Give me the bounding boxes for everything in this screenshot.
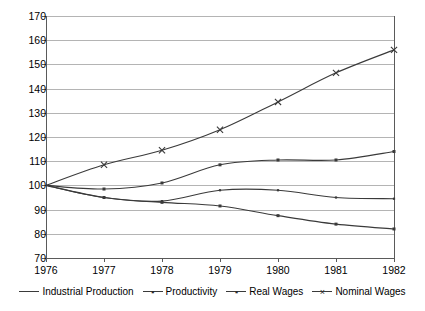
series-productivity xyxy=(46,150,396,191)
legend-marker-icon xyxy=(19,287,39,297)
data-point-marker xyxy=(219,204,222,207)
series-real-wages xyxy=(46,185,396,230)
data-point-marker xyxy=(161,201,164,204)
legend-marker-icon: × xyxy=(312,287,332,297)
legend-label: Industrial Production xyxy=(42,286,133,297)
data-point-marker xyxy=(277,158,280,161)
data-point-marker xyxy=(161,181,164,184)
data-point-marker xyxy=(103,196,106,199)
legend-item-productivity[interactable]: ▪Productivity xyxy=(143,286,218,297)
data-point-marker xyxy=(217,127,223,133)
data-point-marker xyxy=(335,158,338,161)
series-layer xyxy=(0,0,425,311)
data-point-marker xyxy=(393,150,396,153)
legend-marker-icon: ▪ xyxy=(226,287,246,297)
line-chart: 708090100110120130140150160170 197619771… xyxy=(0,0,425,311)
data-point-marker xyxy=(391,47,397,53)
data-point-marker xyxy=(275,99,281,105)
chart-legend: Industrial Production▪Productivity▪Real … xyxy=(0,286,425,297)
data-point-marker xyxy=(103,188,106,191)
data-point-marker xyxy=(277,214,280,217)
legend-label: Real Wages xyxy=(249,286,303,297)
data-point-marker xyxy=(277,189,279,191)
legend-item-real-wages[interactable]: ▪Real Wages xyxy=(226,286,303,297)
data-point-marker xyxy=(101,162,107,168)
data-point-marker xyxy=(219,189,221,191)
legend-label: Nominal Wages xyxy=(335,286,405,297)
legend-marker-icon: ▪ xyxy=(143,287,163,297)
data-point-marker xyxy=(333,70,339,76)
data-point-marker xyxy=(159,147,165,153)
legend-label: Productivity xyxy=(166,286,218,297)
legend-item-nominal-wages[interactable]: ×Nominal Wages xyxy=(312,286,405,297)
legend-item-industrial-production[interactable]: Industrial Production xyxy=(19,286,133,297)
data-point-marker xyxy=(219,163,222,166)
data-point-marker xyxy=(393,198,395,200)
series-industrial-production xyxy=(46,185,395,202)
data-point-marker xyxy=(393,227,396,230)
data-point-marker xyxy=(335,196,337,198)
data-point-marker xyxy=(335,223,338,226)
